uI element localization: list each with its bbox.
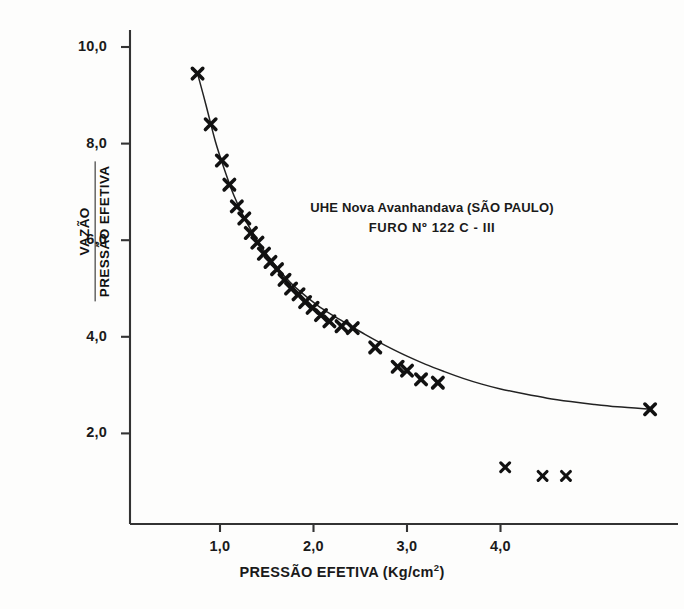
chart-annotation: UHE Nova Avanhandava (SÃO PAULO) FURO Nº… (292, 198, 572, 238)
data-point-marker (239, 213, 249, 223)
x-tick-label: 4,0 (471, 538, 531, 554)
data-point-marker (224, 179, 234, 189)
x-axis-title: PRESSÃO EFETIVA (Kg/cm2) (0, 562, 684, 580)
data-point-marker (370, 342, 380, 352)
y-axis-title-numerator: VAZÃO (77, 161, 95, 301)
data-point-marker (433, 377, 443, 387)
data-point-marker (348, 323, 358, 333)
data-point-marker (336, 321, 346, 331)
data-point-marker (538, 472, 547, 481)
y-tick-label: 2,0 (45, 424, 107, 440)
x-axis-title-text: PRESSÃO EFETIVA (Kg/cm (239, 564, 433, 580)
x-tick-label: 3,0 (377, 538, 437, 554)
data-point-marker (192, 68, 202, 78)
data-points (192, 68, 655, 480)
y-axis-title: VAZÃO PRESSÃO EFETIVA (77, 151, 114, 311)
annotation-line-1: UHE Nova Avanhandava (SÃO PAULO) (292, 198, 572, 218)
axes-group (121, 30, 678, 532)
chart-figure: 2,04,06,08,010,0 1,02,03,04,0 VAZÃO PRES… (0, 0, 684, 609)
y-tick-label: 10,0 (45, 38, 107, 54)
data-point-marker (272, 264, 282, 274)
data-point-marker (501, 463, 510, 472)
data-point-marker (562, 472, 571, 481)
data-point-marker (416, 374, 426, 384)
y-tick-label: 4,0 (45, 328, 107, 344)
x-axis-title-suffix: ) (439, 564, 444, 580)
y-tick-label: 8,0 (45, 135, 107, 151)
annotation-line-2: FURO Nº 122 C - III (292, 218, 572, 238)
x-tick-label: 2,0 (284, 538, 344, 554)
y-axis-title-denominator: PRESSÃO EFETIVA (95, 161, 114, 301)
x-tick-label: 1,0 (190, 538, 250, 554)
fitted-curve-path (198, 74, 651, 410)
fitted-curve (198, 74, 651, 410)
